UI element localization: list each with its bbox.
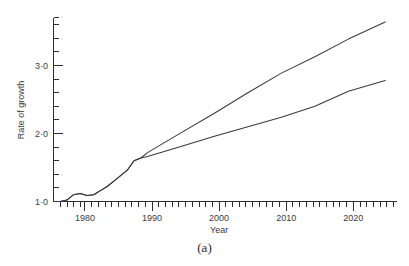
x-axis [54,202,397,211]
x-tick-label-2020: 2020 [343,213,363,223]
y-axis-title: Rate of growth [16,81,26,140]
x-tick-label-1980: 1980 [75,213,95,223]
series-group [54,22,386,202]
x-tick-label-2010: 2010 [276,213,296,223]
y-tick-label-1: 1·0 [35,197,48,207]
x-axis-title: Year [210,225,228,235]
growth-rate-line-chart: 3·0 2·0 1·0 1980 1990 2000 2010 2020 Yea… [0,0,409,266]
series-line-upper [54,22,386,202]
y-axis [54,18,63,202]
figure-panel: 3·0 2·0 1·0 1980 1990 2000 2010 2020 Yea… [0,0,409,266]
series-line-lower [54,80,386,201]
x-tick-label-2000: 2000 [209,213,229,223]
x-tick-label-1990: 1990 [142,213,162,223]
figure-caption: (a) [0,240,409,256]
y-tick-label-2: 2·0 [35,129,48,139]
y-tick-label-3: 3·0 [35,61,48,71]
